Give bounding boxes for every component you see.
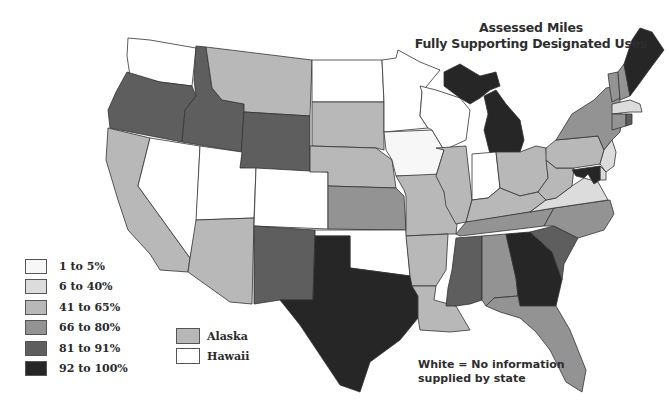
- inset-item-hawaii: Hawaii: [176, 346, 249, 366]
- no-info-note: White = No information supplied by state: [418, 358, 565, 386]
- alaska-swatch: [176, 328, 200, 344]
- state-ms: [446, 236, 482, 306]
- state-ks: [328, 186, 406, 230]
- state-co: [254, 168, 328, 229]
- legend-swatch: [25, 279, 47, 294]
- state-ct: [612, 114, 626, 130]
- legend-label: 41 to 65%: [59, 301, 120, 314]
- legend-item: 81 to 91%: [25, 338, 128, 359]
- hawaii-label: Hawaii: [207, 350, 249, 363]
- legend-item: 41 to 65%: [25, 297, 128, 318]
- state-mi-lower: [484, 90, 524, 154]
- legend-swatch: [25, 320, 47, 335]
- state-wy: [240, 112, 310, 172]
- legend-label: 81 to 91%: [59, 342, 120, 355]
- state-nd: [312, 60, 384, 102]
- legend-swatch: [25, 300, 47, 315]
- legend-label: 1 to 5%: [59, 260, 105, 273]
- legend-item: 66 to 80%: [25, 318, 128, 339]
- state-sd: [312, 102, 384, 150]
- legend-item: 6 to 40%: [25, 277, 128, 298]
- state-az: [188, 218, 254, 304]
- hawaii-swatch: [176, 348, 200, 364]
- state-ar: [406, 234, 448, 286]
- inset-item-alaska: Alaska: [176, 326, 249, 346]
- legend-item: 92 to 100%: [25, 359, 128, 380]
- legend-swatch: [25, 361, 47, 376]
- state-nm: [254, 226, 315, 304]
- map-title: Assessed Miles Fully Supporting Designat…: [400, 20, 662, 52]
- alaska-label: Alaska: [207, 330, 248, 343]
- legend-label: 6 to 40%: [59, 280, 113, 293]
- state-pa: [546, 136, 604, 168]
- title-line-1: Assessed Miles: [400, 20, 662, 36]
- state-ri: [626, 114, 632, 126]
- legend-label: 66 to 80%: [59, 321, 120, 334]
- legend-label: 92 to 100%: [59, 362, 128, 375]
- legend-swatch: [25, 259, 47, 274]
- note-line-1: White = No information: [418, 358, 565, 372]
- note-line-2: supplied by state: [418, 372, 565, 386]
- title-line-2: Fully Supporting Designated Uses: [400, 36, 662, 52]
- legend-item: 1 to 5%: [25, 256, 128, 277]
- legend: 1 to 5% 6 to 40% 41 to 65% 66 to 80% 81 …: [25, 256, 128, 379]
- inset-legend: Alaska Hawaii: [176, 326, 249, 366]
- legend-swatch: [25, 341, 47, 356]
